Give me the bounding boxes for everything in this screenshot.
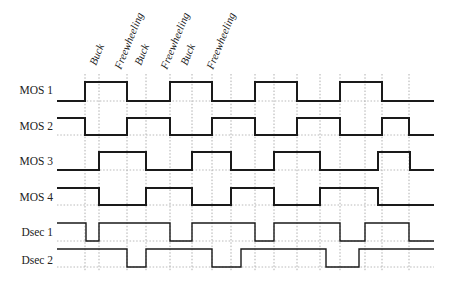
row-labels: MOS 1MOS 2MOS 3MOS 4Dsec 1Dsec 2	[19, 84, 53, 266]
waveform-mos-2	[57, 118, 434, 135]
phase-label-buck: Buck	[132, 41, 152, 67]
waveform-mos-3	[57, 152, 434, 170]
row-label-mos-3: MOS 3	[19, 155, 53, 167]
row-label-mos-4: MOS 4	[19, 191, 53, 203]
timing-diagram: MOS 1MOS 2MOS 3MOS 4Dsec 1Dsec 2 BuckFre…	[0, 0, 454, 283]
row-label-mos-1: MOS 1	[19, 84, 53, 96]
phase-label-freewheeling: Freewheeling	[203, 10, 237, 72]
waveform-dsec-2	[57, 249, 434, 267]
phase-labels: BuckFreewheelingBuckFreewheelingBuckFree…	[87, 10, 238, 72]
phase-label-buck: Buck	[178, 41, 198, 67]
vertical-grid-lines	[85, 74, 409, 272]
horizontal-grid-lines	[57, 101, 434, 267]
row-label-dsec-1: Dsec 1	[21, 226, 53, 238]
waveform-mos-1	[57, 82, 434, 101]
waveform-mos-4	[57, 188, 434, 205]
signal-waveforms	[57, 82, 434, 267]
row-label-dsec-2: Dsec 2	[21, 254, 53, 266]
waveform-dsec-1	[57, 223, 434, 241]
row-label-mos-2: MOS 2	[19, 120, 53, 132]
phase-label-buck: Buck	[87, 41, 107, 67]
